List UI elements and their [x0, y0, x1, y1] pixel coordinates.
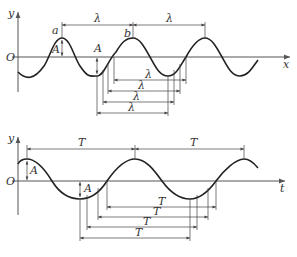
wavelength-label-2: λ: [165, 12, 173, 25]
vibration-curve: [18, 159, 258, 199]
amplitude-label-a: A: [51, 43, 60, 56]
t-axis-label: t: [280, 182, 285, 195]
origin-label: O: [6, 51, 15, 64]
period-label-2: T: [190, 136, 199, 149]
origin-label: O: [6, 175, 15, 188]
y-axis-label: y: [7, 7, 15, 20]
period-label-1: T: [78, 136, 87, 149]
point-b-label: b: [124, 27, 131, 40]
wavelength-label-1: λ: [93, 12, 101, 25]
point-a-label: a: [52, 24, 59, 37]
amplitude-label-trough: A: [93, 42, 102, 55]
stacked-wavelength-label-1: λ: [144, 68, 152, 81]
wave-diagram: y x O a b λ λ A A λ λ: [0, 0, 297, 257]
amplitude-label-start: A: [29, 164, 38, 177]
vibration-graph-bottom: y t O A A T T T T T T: [6, 132, 285, 241]
stacked-wavelength-label-4: λ: [127, 101, 135, 114]
x-axis-label: x: [283, 58, 290, 71]
y-axis-label: y: [7, 132, 15, 145]
amplitude-label-trough: A: [83, 182, 92, 195]
wave-graph-top: y x O a b λ λ A A λ λ: [6, 7, 290, 116]
